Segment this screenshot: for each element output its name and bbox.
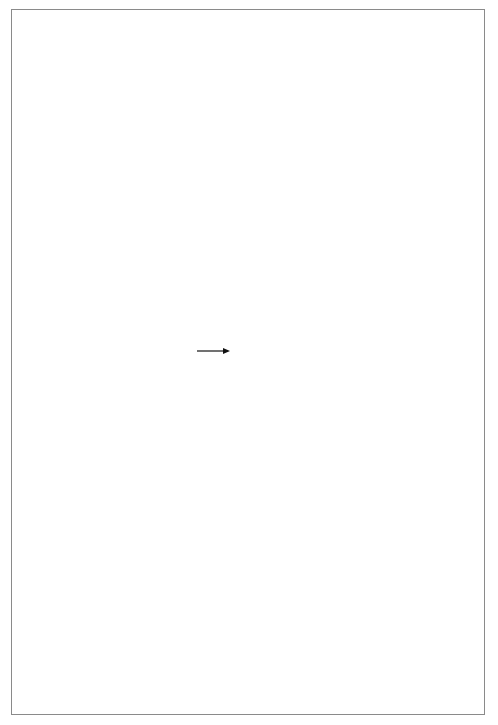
access-arrow-icon [196,344,232,358]
stone-circle-diagrams [0,0,498,725]
legend-obstructions [314,343,321,358]
